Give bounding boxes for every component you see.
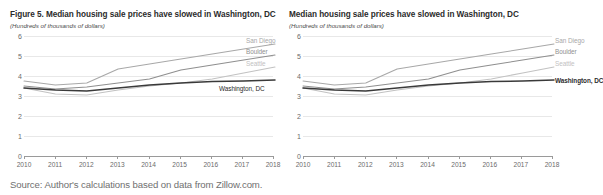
series-line	[303, 55, 554, 89]
y-tick-label: 0	[10, 153, 22, 160]
y-tick-label: 4	[10, 73, 22, 80]
x-tick-label: 2015	[451, 161, 466, 168]
x-tick-label: 2017	[235, 161, 250, 168]
y-tick-label: 3	[10, 93, 22, 100]
x-tick-mark	[334, 156, 335, 159]
x-tick-mark	[24, 156, 25, 159]
plot-area-left: 0123456 San DiegoBoulderSeattleWashingto…	[10, 32, 275, 172]
plot-area-right: 0123456 San DiegoBoulderSeattleWashingto…	[289, 32, 554, 172]
x-tick-mark	[521, 156, 522, 159]
x-tick-mark	[273, 156, 274, 159]
x-tick-label: 2018	[545, 161, 560, 168]
x-tick-mark	[180, 156, 181, 159]
y-tick-label: 0	[289, 153, 301, 160]
x-tick-label: 2016	[203, 161, 218, 168]
x-tick-label: 2013	[389, 161, 404, 168]
x-tick-label: 2014	[420, 161, 435, 168]
x-tick-mark	[303, 156, 304, 159]
series-label: San Diego	[246, 37, 275, 44]
x-tick-label: 2012	[79, 161, 94, 168]
x-tick-mark	[396, 156, 397, 159]
x-tick-label: 2010	[17, 161, 32, 168]
x-tick-mark	[552, 156, 553, 159]
x-tick-label: 2015	[172, 161, 187, 168]
series-label: Boulder	[555, 48, 577, 55]
y-tick-label: 1	[10, 133, 22, 140]
x-tick-mark	[428, 156, 429, 159]
panel-title-left: Figure 5. Median housing sale prices hav…	[10, 9, 275, 20]
series-label: Washington, DC	[555, 77, 603, 84]
y-tick-label: 6	[289, 33, 301, 40]
x-tick-label: 2012	[358, 161, 373, 168]
x-tick-label: 2014	[141, 161, 156, 168]
x-tick-mark	[365, 156, 366, 159]
x-tick-label: 2016	[482, 161, 497, 168]
x-tick-mark	[242, 156, 243, 159]
series-lines-left	[24, 36, 275, 156]
y-tick-label: 3	[289, 93, 301, 100]
panel-subtitle-left: (Hundreds of thousands of dollars)	[10, 21, 275, 30]
plot-inner-left	[24, 36, 275, 156]
x-tick-mark	[117, 156, 118, 159]
x-tick-label: 2017	[514, 161, 529, 168]
y-tick-label: 2	[289, 113, 301, 120]
x-tick-mark	[55, 156, 56, 159]
source-note: Source: Author's calculations based on d…	[10, 179, 262, 190]
series-label: San Diego	[555, 37, 584, 44]
x-tick-label: 2013	[110, 161, 125, 168]
panel-subtitle-right: (Hundreds of thousands of dollars)	[289, 21, 554, 30]
x-tick-label: 2011	[48, 161, 62, 168]
panel-title-right: Median housing sale prices have slowed i…	[289, 9, 554, 20]
plot-inner-right	[303, 36, 554, 156]
x-tick-mark	[459, 156, 460, 159]
series-label: Seattle	[246, 60, 266, 67]
x-tick-label: 2011	[327, 161, 341, 168]
series-label: Boulder	[246, 48, 268, 55]
x-tick-mark	[86, 156, 87, 159]
y-tick-label: 5	[10, 53, 22, 60]
x-tick-mark	[149, 156, 150, 159]
chart-panels: Figure 5. Median housing sale prices hav…	[0, 0, 558, 168]
y-tick-label: 1	[289, 133, 301, 140]
series-lines-right	[303, 36, 554, 156]
x-tick-mark	[490, 156, 491, 159]
y-tick-label: 5	[289, 53, 301, 60]
x-tick-mark	[211, 156, 212, 159]
y-tick-label: 6	[10, 33, 22, 40]
chart-panel-left: Figure 5. Median housing sale prices hav…	[0, 0, 279, 168]
y-tick-label: 2	[10, 113, 22, 120]
chart-panel-right: Median housing sale prices have slowed i…	[279, 0, 558, 168]
series-line	[303, 80, 554, 91]
x-tick-label: 2010	[296, 161, 311, 168]
series-label: Seattle	[555, 60, 575, 67]
series-label: Washington, DC	[219, 85, 265, 92]
y-tick-label: 4	[289, 73, 301, 80]
